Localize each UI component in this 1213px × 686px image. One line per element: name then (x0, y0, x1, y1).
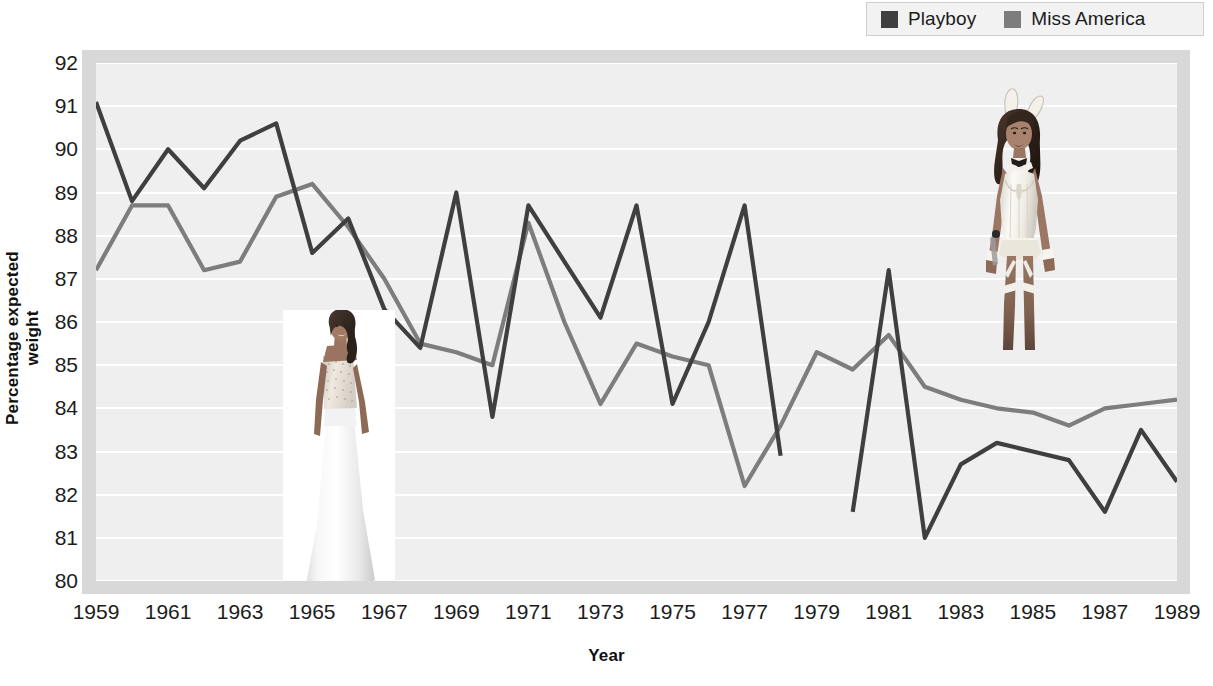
chart-legend: Playboy Miss America (866, 2, 1204, 36)
plot-frame (82, 50, 1190, 594)
plot-area (96, 63, 1177, 581)
legend-entry-miss-america: Miss America (1004, 8, 1145, 30)
y-axis-tick-label: 86 (36, 311, 78, 332)
x-axis-tick-label: 1981 (854, 601, 924, 622)
x-axis-tick-label: 1975 (638, 601, 708, 622)
x-axis-tick-label: 1979 (782, 601, 852, 622)
series-line-playboy (96, 102, 781, 456)
y-axis-tick-label: 80 (36, 570, 78, 591)
x-axis-tick-label: 1967 (349, 601, 419, 622)
x-axis-tick-label: 1977 (710, 601, 780, 622)
x-axis-tick-label: 1985 (998, 601, 1068, 622)
y-axis-tick-label: 89 (36, 182, 78, 203)
y-axis-tick-label: 85 (36, 354, 78, 375)
x-axis-title: Year (0, 646, 1213, 666)
y-axis-tick-label: 84 (36, 397, 78, 418)
x-axis-tick-label: 1983 (926, 601, 996, 622)
legend-label-playboy: Playboy (908, 8, 976, 30)
y-axis-tick-label: 90 (36, 138, 78, 159)
x-axis-tick-label: 1969 (421, 601, 491, 622)
x-axis-tick-label: 1973 (565, 601, 635, 622)
x-axis-tick-label: 1987 (1070, 601, 1140, 622)
playboy-bunny-photo (965, 88, 1075, 378)
y-axis-tick-label: 92 (36, 52, 78, 73)
x-axis-tick-label: 1989 (1142, 601, 1212, 622)
y-axis-tick-labels: 80818283848586878889909192 (20, 0, 78, 686)
square-swatch-icon (881, 11, 898, 28)
square-swatch-icon (1004, 11, 1021, 28)
y-axis-tick-label: 81 (36, 527, 78, 548)
y-axis-tick-label: 82 (36, 484, 78, 505)
y-axis-tick-label: 88 (36, 225, 78, 246)
y-axis-tick-label: 91 (36, 95, 78, 116)
x-axis-tick-label: 1965 (277, 601, 347, 622)
x-axis-tick-label: 1963 (205, 601, 275, 622)
y-axis-tick-label: 83 (36, 441, 78, 462)
x-axis-tick-label: 1961 (133, 601, 203, 622)
x-axis-tick-label: 1959 (61, 601, 131, 622)
legend-entry-playboy: Playboy (881, 8, 976, 30)
legend-label-miss-america: Miss America (1031, 8, 1145, 30)
miss-america-contestant-photo (283, 310, 395, 581)
x-axis-tick-label: 1971 (493, 601, 563, 622)
y-axis-tick-label: 87 (36, 268, 78, 289)
